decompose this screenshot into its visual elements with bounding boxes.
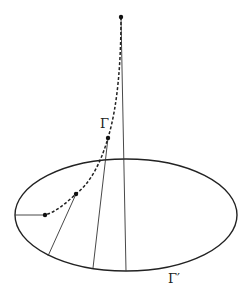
point-mid bbox=[74, 192, 78, 196]
diagram-canvas: Γ Γ′ bbox=[0, 0, 249, 293]
vertical-line bbox=[121, 17, 126, 271]
label-gamma: Γ bbox=[100, 116, 109, 131]
curve-gamma bbox=[45, 17, 121, 215]
label-gamma-prime: Γ′ bbox=[168, 271, 180, 286]
point-gamma bbox=[106, 136, 110, 140]
point-left bbox=[43, 213, 47, 217]
point-top bbox=[119, 15, 123, 19]
generator-line-3 bbox=[48, 194, 76, 256]
